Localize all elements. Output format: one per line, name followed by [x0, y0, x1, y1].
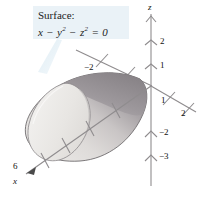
z-tick-label-neg3: −3	[159, 151, 169, 161]
paraboloid-figure: Surface: x − y2 − z2 = 0 z x 2 1 −2 −3 −…	[0, 0, 203, 207]
x-axis-label: x	[13, 176, 17, 186]
x-tick-label-6: 6	[13, 161, 18, 171]
annotation-equation: x − y2 − z2 = 0	[38, 22, 134, 39]
y-tick-label-1: 1	[161, 95, 166, 105]
z-axis-label: z	[148, 2, 152, 12]
annotation-label: Surface:	[38, 8, 134, 22]
paraboloid-surface	[25, 73, 147, 161]
annotation-leader-line	[38, 39, 62, 74]
z-tick-label-1: 1	[160, 60, 165, 70]
eq-z-exponent: 2	[85, 25, 89, 33]
eq-x: x	[38, 26, 43, 38]
eq-minus-1: −	[46, 26, 54, 38]
eq-minus-2: −	[69, 26, 77, 38]
annotation-text: Surface: x − y2 − z2 = 0	[38, 8, 134, 39]
z-tick-label-2: 2	[160, 36, 165, 46]
eq-y-exponent: 2	[62, 25, 66, 33]
y-tick-label-2: 2	[181, 108, 186, 118]
x-axis-arrow	[27, 167, 36, 175]
z-tick-label-neg2: −2	[159, 127, 169, 137]
y-tick-label-neg2: −2	[84, 62, 94, 72]
eq-equals-zero: = 0	[91, 26, 108, 38]
